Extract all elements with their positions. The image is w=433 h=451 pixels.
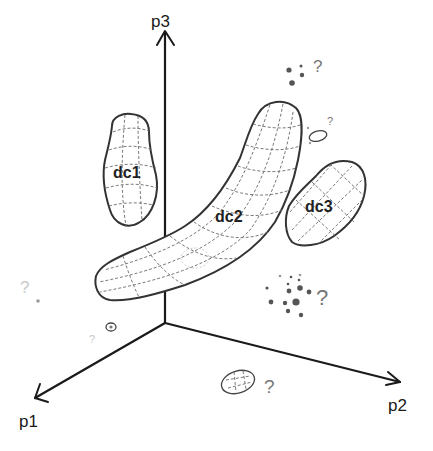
uncertain-marker-dot-cloud: ? [316,285,328,310]
cluster-dc1: dc1 [104,114,157,226]
noise-bottom-ellipse: ? [218,366,274,397]
noise-lower-left: ? [89,323,116,345]
noise-dot-cloud: ? [265,274,328,317]
uncertain-marker-lower-left: ? [89,333,95,345]
dc2-label: dc2 [215,208,243,225]
p2-axis [165,323,400,382]
uncertain-marker-near-dc2: ? [327,115,333,127]
noise-left-faint: ? [20,278,40,303]
p2-axis-label: p2 [388,396,407,415]
uncertain-marker-bottom: ? [264,376,275,397]
noise-top-right: ? [286,57,322,86]
dc1-label: dc1 [113,164,141,181]
dc3-label: dc3 [305,198,333,215]
uncertain-marker-top-right: ? [313,57,322,76]
p1-axis [35,323,165,398]
cluster-diagram: p3 p1 p2 dc1 [0,0,433,451]
cluster-dc3: dc3 [286,161,366,245]
uncertain-marker-left: ? [20,278,29,297]
p1-axis-label: p1 [19,412,38,431]
p3-axis-label: p3 [151,12,170,31]
noise-near-dc2-tip: ? [307,115,333,144]
